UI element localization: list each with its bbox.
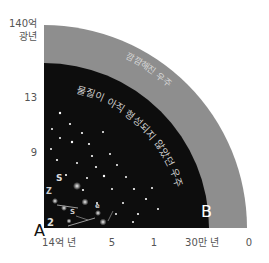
spiral-galaxy-icon: 2 — [47, 217, 54, 228]
point-b-label: B — [201, 202, 212, 221]
x-axis-tick-3: 1 — [151, 237, 157, 248]
spiral-galaxy-icon: Z — [46, 187, 52, 196]
y-axis-top-label-line2: 광년 — [19, 31, 37, 42]
spiral-galaxy-icon: e — [95, 202, 100, 210]
x-axis-tick-1: 14억 년 — [42, 237, 76, 248]
y-axis-tick-13: 13 — [24, 92, 37, 103]
universe-diagram: S Z S 2 e 깜깜해진 우주 물질이 아직 형성되지 않았던 우주 A B… — [0, 0, 269, 263]
x-axis-tick-4: 30만 년 — [185, 237, 219, 248]
y-axis-top-label-line1: 140억 — [9, 18, 37, 29]
x-axis-tick-5: 0 — [246, 237, 252, 248]
spiral-galaxy-icon: S — [70, 208, 75, 216]
y-axis-tick-9: 9 — [31, 147, 37, 158]
spiral-galaxy-icon: S — [56, 173, 62, 183]
x-axis-tick-2: 5 — [109, 237, 115, 248]
